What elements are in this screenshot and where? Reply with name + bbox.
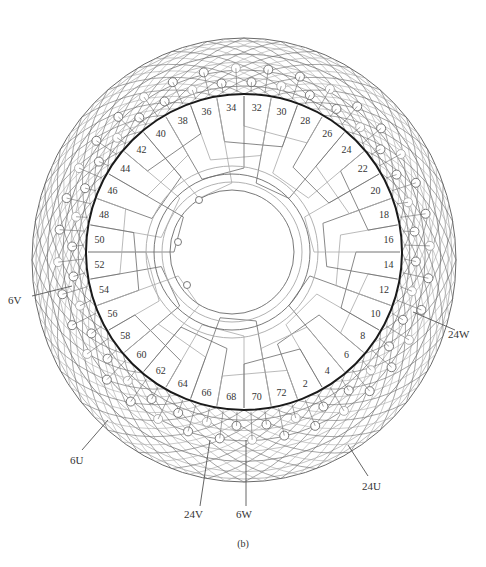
slot-label: 52 <box>95 259 105 270</box>
slot-label: 38 <box>178 115 188 126</box>
slot-label: 48 <box>99 209 109 220</box>
winding-diagram: 2468101214161820222426283032343638404244… <box>0 0 486 567</box>
slot-label: 24 <box>342 144 352 155</box>
slot-label: 64 <box>178 378 188 389</box>
slot-label: 22 <box>358 163 368 174</box>
slot-label: 20 <box>370 185 380 196</box>
slot-label: 56 <box>108 308 118 319</box>
figure-caption: (b) <box>0 538 486 549</box>
slot-label: 62 <box>156 365 166 376</box>
slot-label: 2 <box>303 378 308 389</box>
terminal-lead-line <box>82 420 108 450</box>
slot-label: 60 <box>136 349 146 360</box>
terminal-lead-line <box>348 445 368 476</box>
slot-label: 44 <box>120 163 130 174</box>
slot-label: 50 <box>95 234 105 245</box>
coil-connections <box>88 96 400 408</box>
slot-label: 72 <box>277 387 287 398</box>
slot-label: 28 <box>300 115 310 126</box>
terminal-label-24v: 24V <box>184 508 203 520</box>
slot-label: 68 <box>226 391 236 402</box>
slot-label: 40 <box>156 128 166 139</box>
slot-label: 26 <box>322 128 332 139</box>
slot-label: 6 <box>344 349 349 360</box>
slot-label: 46 <box>108 185 118 196</box>
slot-label: 54 <box>99 284 109 295</box>
slot-label: 10 <box>370 308 380 319</box>
terminal-label-24u: 24U <box>362 480 381 492</box>
slot-label: 34 <box>226 102 236 113</box>
slot-label: 70 <box>252 391 262 402</box>
slot-label: 8 <box>360 330 365 341</box>
terminal-lead-line <box>200 440 210 506</box>
slot-label: 36 <box>201 106 211 117</box>
terminal-label-6w: 6W <box>236 508 252 520</box>
slot-label: 18 <box>379 209 389 220</box>
terminal-label-24w: 24W <box>448 328 469 340</box>
slot-label: 16 <box>383 234 393 245</box>
slot-label: 4 <box>325 365 330 376</box>
terminal-label-6u: 6U <box>70 454 83 466</box>
slot-label: 58 <box>120 330 130 341</box>
slot-label: 32 <box>252 102 262 113</box>
slot-label: 42 <box>136 144 146 155</box>
slot-label: 66 <box>201 387 211 398</box>
slot-label: 12 <box>379 284 389 295</box>
slot-label: 14 <box>383 259 393 270</box>
slot-label: 30 <box>277 106 287 117</box>
terminal-label-6v: 6V <box>8 294 21 306</box>
